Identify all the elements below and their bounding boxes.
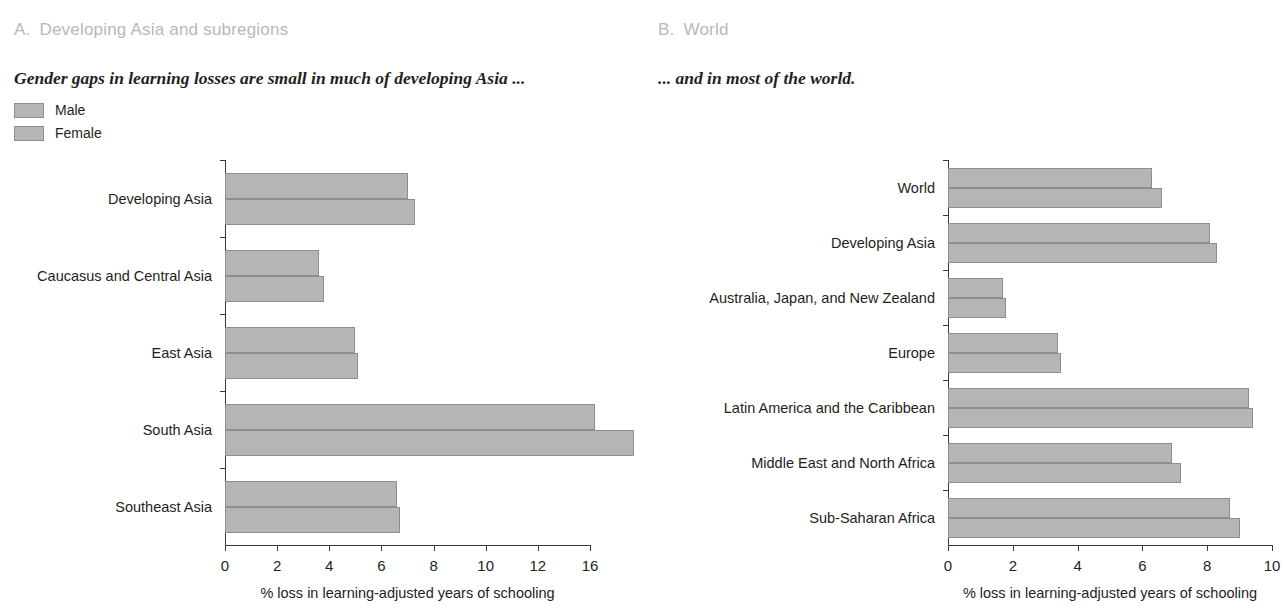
x-axis-line (948, 545, 1272, 546)
bar-female (948, 518, 1240, 538)
y-axis-tick (943, 490, 948, 491)
panel-a-title: Developing Asia and subregions (39, 20, 288, 39)
panel-b: B.World ... and in most of the world. Wo… (640, 0, 1285, 608)
x-axis-tick (434, 545, 435, 551)
category-axis-b: WorldDeveloping AsiaAustralia, Japan, an… (640, 160, 935, 545)
x-axis-tick-label: 10 (477, 557, 494, 574)
category-label: Southeast Asia (115, 499, 212, 515)
legend-swatch-female (14, 126, 44, 141)
bar-male (948, 223, 1210, 243)
legend-label-female: Female (55, 125, 102, 141)
panel-b-subtitle: ... and in most of the world. (658, 68, 855, 89)
bar-female (948, 463, 1181, 483)
x-axis-tick (329, 545, 330, 551)
y-axis-tick (943, 215, 948, 216)
x-axis-tick (486, 545, 487, 551)
y-axis-tick (220, 237, 225, 238)
y-axis-tick (943, 160, 948, 161)
bar-female (948, 408, 1253, 428)
x-axis-tick-label: 6 (1138, 557, 1146, 574)
bar-male (225, 404, 595, 430)
panel-a-letter: A. (14, 20, 30, 39)
legend: Male Female (14, 100, 102, 146)
panel-a: A.Developing Asia and subregions Gender … (0, 0, 640, 608)
x-axis-tick-label: 16 (582, 557, 599, 574)
x-axis-tick (948, 545, 949, 551)
bar-female (225, 507, 400, 533)
bar-female (225, 430, 634, 456)
x-axis-tick-label: 10 (1264, 557, 1281, 574)
legend-item-male: Male (14, 100, 102, 120)
x-axis-tick-label: 2 (1009, 557, 1017, 574)
bar-male (225, 327, 355, 353)
x-axis-tick-label: 12 (530, 557, 547, 574)
bar-female (225, 353, 358, 379)
panel-b-title: World (683, 20, 728, 39)
x-axis-tick (1207, 545, 1208, 551)
x-axis-tick (277, 545, 278, 551)
y-axis-tick (943, 270, 948, 271)
bar-male (948, 168, 1152, 188)
category-label: Caucasus and Central Asia (37, 268, 212, 284)
x-axis-tick-label: 4 (1073, 557, 1081, 574)
category-label: Developing Asia (831, 235, 935, 251)
category-label: East Asia (152, 345, 212, 361)
bar-male (948, 333, 1058, 353)
y-axis-tick (220, 160, 225, 161)
category-label: Middle East and North Africa (751, 455, 935, 471)
x-axis-tick (1078, 545, 1079, 551)
y-axis-tick (220, 314, 225, 315)
bar-male (225, 481, 397, 507)
bar-female (225, 276, 324, 302)
x-axis-tick-label: 8 (429, 557, 437, 574)
y-axis-tick (943, 325, 948, 326)
y-axis-tick (943, 380, 948, 381)
x-axis-tick (538, 545, 539, 551)
x-axis-tick-label: 6 (377, 557, 385, 574)
legend-item-female: Female (14, 123, 102, 143)
x-axis-tick (1142, 545, 1143, 551)
x-axis-line (225, 545, 590, 546)
x-axis-tick-label: 0 (944, 557, 952, 574)
category-label: South Asia (143, 422, 212, 438)
category-label: World (897, 180, 935, 196)
chart-panel-b: WorldDeveloping AsiaAustralia, Japan, an… (640, 160, 1285, 608)
category-label: Sub-Saharan Africa (809, 510, 935, 526)
y-axis-tick (943, 435, 948, 436)
x-axis-tick-label: 4 (325, 557, 333, 574)
bar-male (948, 498, 1230, 518)
x-axis-tick (381, 545, 382, 551)
bar-female (948, 243, 1217, 263)
bar-female (948, 353, 1061, 373)
legend-label-male: Male (55, 102, 85, 118)
bar-male (225, 250, 319, 276)
x-axis-tick (225, 545, 226, 551)
x-axis-tick (1272, 545, 1273, 551)
x-axis-tick-label: 0 (221, 557, 229, 574)
x-axis-title: % loss in learning-adjusted years of sch… (260, 585, 554, 601)
panel-b-letter: B. (658, 20, 674, 39)
x-axis-tick (590, 545, 591, 551)
legend-swatch-male (14, 103, 44, 118)
panel-a-heading: A.Developing Asia and subregions (14, 20, 288, 40)
x-axis-tick-label: 8 (1203, 557, 1211, 574)
x-axis-tick-label: 2 (273, 557, 281, 574)
y-axis-tick (220, 391, 225, 392)
panel-a-subtitle: Gender gaps in learning losses are small… (14, 68, 525, 89)
category-label: Latin America and the Caribbean (724, 400, 935, 416)
category-label: Europe (888, 345, 935, 361)
panel-b-heading: B.World (658, 20, 729, 40)
figure-root: A.Developing Asia and subregions Gender … (0, 0, 1285, 608)
bar-female (948, 188, 1162, 208)
category-axis-a: Developing AsiaCaucasus and Central Asia… (0, 160, 212, 545)
bar-male (948, 278, 1003, 298)
x-axis-tick (1013, 545, 1014, 551)
bar-male (948, 388, 1249, 408)
bar-male (225, 173, 408, 199)
category-label: Developing Asia (108, 191, 212, 207)
bar-female (225, 199, 415, 225)
bar-male (948, 443, 1172, 463)
chart-panel-a: Developing AsiaCaucasus and Central Asia… (0, 160, 640, 608)
y-axis-tick (220, 468, 225, 469)
category-label: Australia, Japan, and New Zealand (709, 290, 935, 306)
